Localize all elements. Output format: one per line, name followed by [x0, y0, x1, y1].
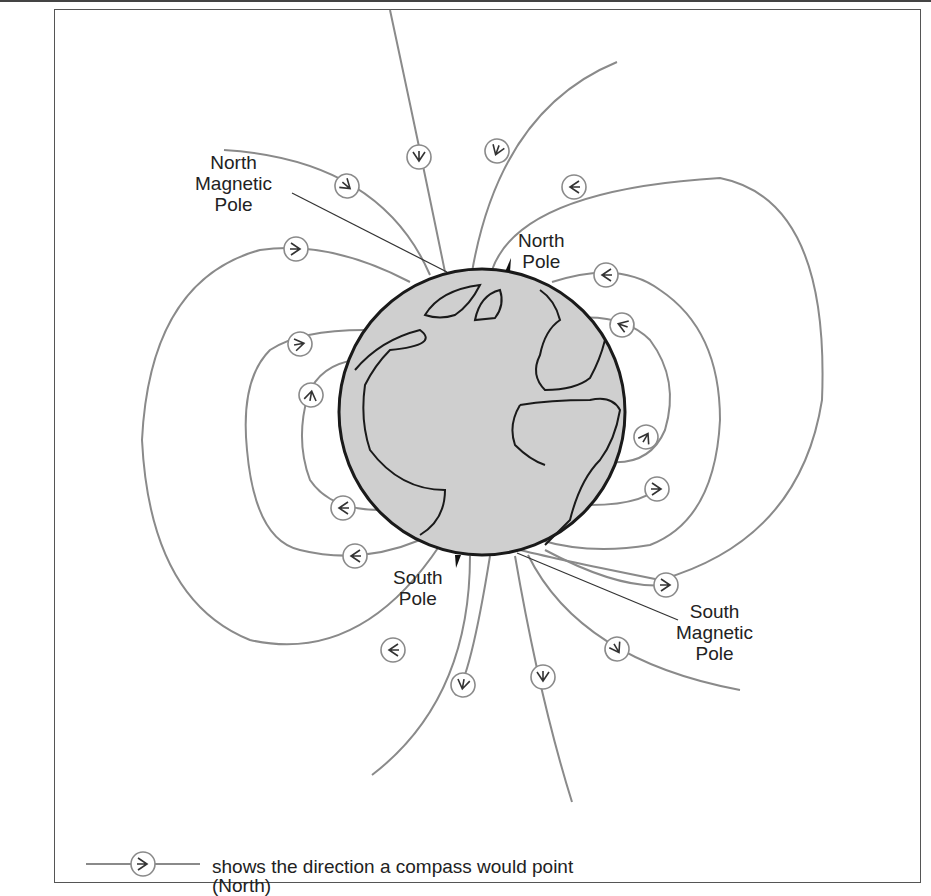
south-pole-label: South Pole [393, 567, 443, 609]
label-line: North [518, 230, 564, 251]
label-line: South [676, 601, 753, 622]
legend-compass-symbol [86, 852, 200, 876]
legend-line-1: shows the direction a compass would poin… [212, 857, 573, 876]
legend-line-2: (North) [212, 876, 573, 895]
south-pole-marker [455, 555, 461, 568]
label-line: Pole [676, 643, 753, 664]
label-line: Magnetic [676, 622, 753, 643]
label-line: Pole [195, 194, 272, 215]
south-magnetic-pole-label: South Magnetic Pole [676, 601, 753, 664]
north-pole-label: North Pole [518, 230, 564, 272]
north-magnetic-pole-leader [292, 193, 447, 272]
legend: shows the direction a compass would poin… [212, 857, 573, 895]
north-magnetic-pole-label: North Magnetic Pole [195, 152, 272, 215]
label-line: Pole [393, 588, 443, 609]
label-line: Magnetic [195, 173, 272, 194]
label-line: North [195, 152, 272, 173]
earth-globe [339, 269, 625, 555]
label-line: South [393, 567, 443, 588]
label-line: Pole [518, 251, 564, 272]
